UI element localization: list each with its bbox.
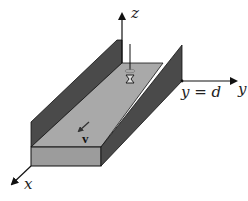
front-face: [31, 147, 101, 166]
y-axis-label: y: [237, 80, 247, 98]
z-axis-label: z: [130, 4, 139, 22]
y-origin-dot: [181, 80, 184, 83]
wall-position-label: y = d: [180, 83, 221, 101]
x-axis-label: x: [24, 175, 33, 193]
channel-flow-diagram: z y y = d x v: [0, 0, 248, 201]
velocity-label: v: [82, 131, 89, 146]
